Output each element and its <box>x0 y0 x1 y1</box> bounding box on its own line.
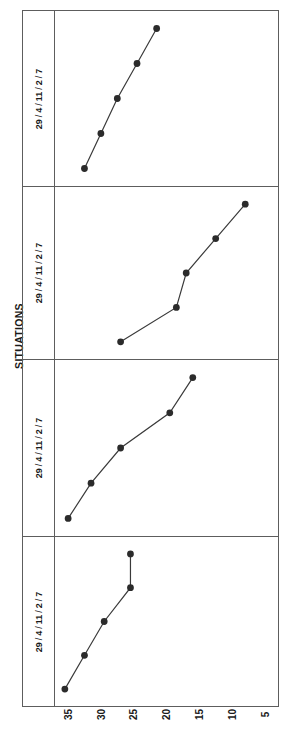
strip-tick-4: 7 <box>34 68 44 73</box>
x-tick-5: 5 <box>254 709 278 720</box>
panel-2-plot <box>55 187 278 359</box>
strip-tick-0: 29 <box>34 642 44 652</box>
panel-2: 29/4/11/2/7 <box>23 186 278 359</box>
panel-3-strip: 29/4/11/2/7 <box>23 360 55 536</box>
strip-tick-0: 29 <box>34 119 44 129</box>
data-point <box>183 270 190 277</box>
panel-3-plot <box>55 360 278 536</box>
strip-tick-0: 29 <box>34 293 44 303</box>
x-tick-10: 10 <box>221 709 245 720</box>
strip-sep: / <box>34 596 44 603</box>
panel-4-series <box>55 537 278 706</box>
panel-3-strip-label: 29/4/11/2/7 <box>34 418 44 479</box>
x-tick-15: 15 <box>188 709 212 720</box>
strip-tick-3: 2 <box>34 603 44 608</box>
panel-4-strip: 29/4/11/2/7 <box>23 537 55 706</box>
panel-4-strip-label: 29/4/11/2/7 <box>34 591 44 652</box>
strip-tick-3: 2 <box>34 429 44 434</box>
strip-tick-2: 11 <box>34 266 44 276</box>
data-point <box>81 165 88 172</box>
data-point <box>212 235 219 242</box>
data-point <box>127 551 134 558</box>
data-point <box>88 480 95 487</box>
data-point <box>117 338 124 345</box>
strip-sep: / <box>34 624 44 631</box>
data-point <box>242 201 249 208</box>
strip-tick-0: 29 <box>34 468 44 478</box>
strip-tick-1: 4 <box>34 282 44 287</box>
x-tick-30: 30 <box>89 709 113 720</box>
x-axis-tick-labels: 3530252015105 <box>55 709 279 741</box>
strip-tick-1: 4 <box>34 630 44 635</box>
strip-tick-3: 2 <box>34 254 44 259</box>
panel-1-strip-label: 29/4/11/2/7 <box>34 68 44 129</box>
panel-2-series <box>55 187 278 359</box>
strip-sep: / <box>34 275 44 282</box>
strip-tick-4: 7 <box>34 591 44 596</box>
data-point <box>117 445 124 452</box>
strip-sep: / <box>34 635 44 642</box>
panel-1-strip: 29/4/11/2/7 <box>23 11 55 186</box>
strip-tick-1: 4 <box>34 107 44 112</box>
series-line <box>65 554 131 689</box>
data-point <box>101 618 108 625</box>
strip-sep: / <box>34 85 44 92</box>
strip-sep: / <box>34 287 44 294</box>
strip-tick-2: 11 <box>34 614 44 624</box>
situations-panel-chart: SITUATIONS 29/4/11/2/7 29/4/11/2/7 <box>0 0 292 741</box>
data-point <box>81 652 88 659</box>
data-point <box>189 374 196 381</box>
panel-4-plot <box>55 537 278 706</box>
strip-tick-4: 7 <box>34 243 44 248</box>
panel-4: 29/4/11/2/7 <box>23 536 278 706</box>
strip-sep: / <box>34 434 44 441</box>
panel-2-strip-label: 29/4/11/2/7 <box>34 243 44 304</box>
panel-3-series <box>55 360 278 536</box>
panel-1-series <box>55 11 278 186</box>
data-point <box>127 584 134 591</box>
panel-2-strip: 29/4/11/2/7 <box>23 187 55 359</box>
strip-sep: / <box>34 101 44 108</box>
data-point <box>153 25 160 32</box>
strip-tick-2: 11 <box>34 441 44 451</box>
strip-tick-2: 11 <box>34 91 44 101</box>
strip-tick-3: 2 <box>34 80 44 85</box>
strip-sep: / <box>34 608 44 615</box>
data-point <box>173 304 180 311</box>
series-line <box>68 378 193 519</box>
strip-tick-1: 4 <box>34 457 44 462</box>
panel-3: 29/4/11/2/7 <box>23 359 278 536</box>
data-point <box>134 60 141 67</box>
strip-sep: / <box>34 112 44 119</box>
data-point <box>61 686 68 693</box>
x-tick-25: 25 <box>122 709 146 720</box>
panel-1: 29/4/11/2/7 <box>23 11 278 186</box>
strip-sep: / <box>34 73 44 80</box>
strip-sep: / <box>34 423 44 430</box>
panel-1-plot <box>55 11 278 186</box>
strip-sep: / <box>34 259 44 266</box>
data-point <box>65 515 72 522</box>
strip-sep: / <box>34 462 44 469</box>
data-point <box>98 130 105 137</box>
strip-sep: / <box>34 450 44 457</box>
strip-tick-4: 7 <box>34 418 44 423</box>
chart-frame: 29/4/11/2/7 29/4/11/2/7 29/4/11/2/7 <box>22 10 279 707</box>
x-tick-35: 35 <box>56 709 80 720</box>
data-point <box>114 95 121 102</box>
strip-sep: / <box>34 248 44 255</box>
data-point <box>166 409 173 416</box>
x-tick-20: 20 <box>155 709 179 720</box>
